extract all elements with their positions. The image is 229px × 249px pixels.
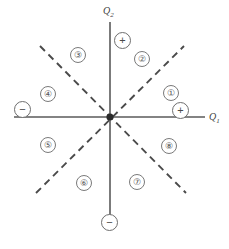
region-marker-5: ⑤: [40, 137, 56, 153]
region-marker-6: ⑥: [76, 175, 92, 191]
region-marker-8: ⑧: [161, 138, 177, 154]
sign-symbol-q1-positive: +: [177, 105, 183, 116]
axis-label-q2: Q2: [103, 6, 114, 19]
sign-marker-q2-positive: +: [114, 32, 131, 49]
region-label-7: ⑦: [133, 178, 141, 187]
axis-label-q2-subscript: 2: [110, 11, 114, 19]
axis-label-q1: Q1: [209, 112, 220, 125]
region-label-1: ①: [167, 89, 175, 98]
region-marker-7: ⑦: [129, 174, 145, 190]
sign-symbol-q2-positive: +: [119, 35, 125, 46]
sign-marker-q2-negative: −: [101, 214, 118, 231]
axis-label-q1-subscript: 1: [216, 117, 220, 125]
sign-symbol-q2-negative: −: [106, 217, 112, 228]
region-label-3: ③: [74, 51, 82, 60]
origin-marker: [106, 113, 113, 120]
region-marker-2: ②: [134, 51, 150, 67]
dashed-line-nw-se: [40, 46, 186, 193]
region-marker-4: ④: [40, 86, 56, 102]
sign-marker-q1-negative: −: [14, 101, 31, 118]
region-label-8: ⑧: [165, 142, 173, 151]
region-marker-1: ①: [163, 85, 179, 101]
region-label-2: ②: [138, 55, 146, 64]
sign-marker-q1-positive: +: [172, 102, 189, 119]
region-label-6: ⑥: [80, 179, 88, 188]
octant-diagram: Q1 Q2 ① ② ③ ④ ⑤ ⑥ ⑦ ⑧ + − + −: [0, 0, 229, 249]
region-label-4: ④: [44, 90, 52, 99]
region-marker-3: ③: [70, 47, 86, 63]
region-label-5: ⑤: [44, 141, 52, 150]
sign-symbol-q1-negative: −: [19, 104, 25, 115]
